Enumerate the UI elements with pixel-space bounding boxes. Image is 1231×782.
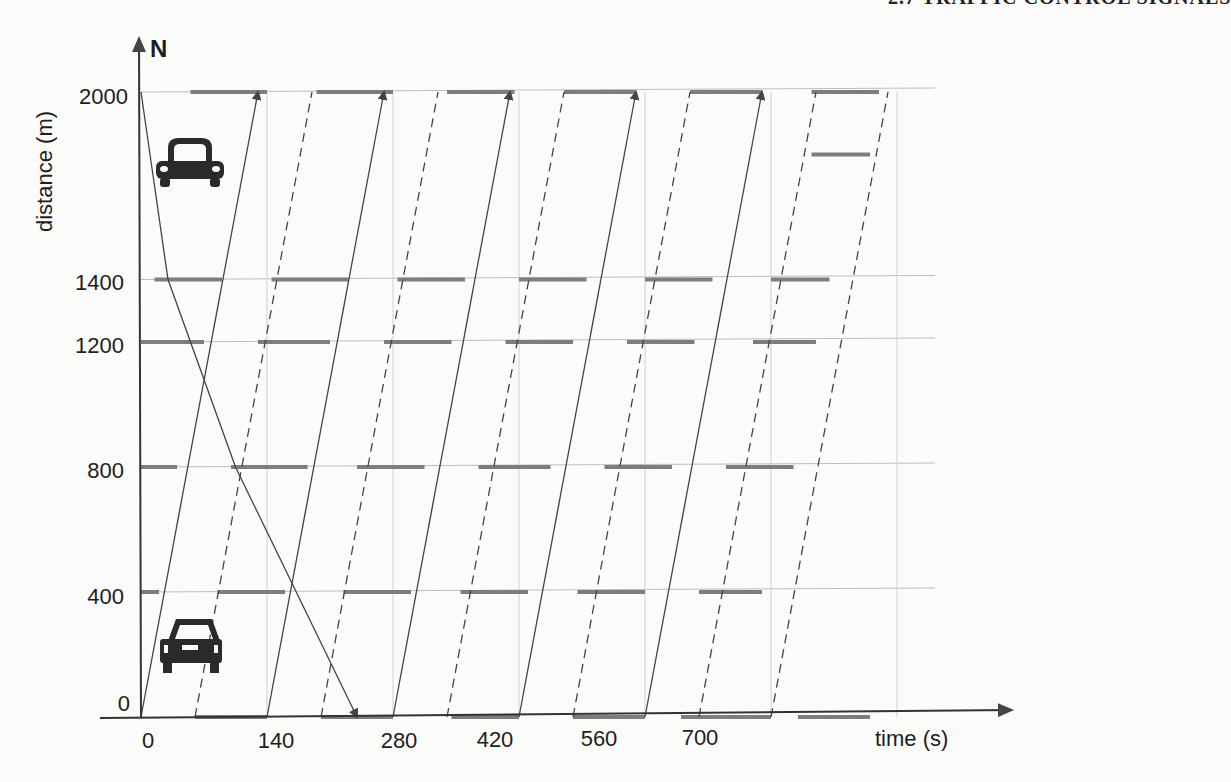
y-tick-2000: 2000 [79, 84, 128, 109]
southbound-trajectory [141, 92, 357, 717]
y-tick-800: 800 [87, 458, 124, 483]
x-tick-0: 0 [142, 728, 154, 753]
y-tick-labels: 0 400 800 1200 1400 2000 [75, 84, 130, 716]
y-tick-0: 0 [118, 691, 130, 716]
y-tick-1400: 1400 [75, 270, 124, 295]
north-label: N [150, 35, 167, 62]
band-end-trajectory [699, 92, 816, 717]
x-tick-700: 700 [682, 725, 719, 750]
band-end-trajectory [321, 92, 438, 717]
red-phase-bars [141, 92, 879, 717]
x-tick-140: 140 [258, 728, 295, 753]
y-tick-400: 400 [87, 584, 124, 609]
trajectories [141, 92, 888, 717]
band-end-trajectory [771, 92, 888, 717]
x-axis [100, 710, 1012, 718]
northbound-trajectory [519, 92, 636, 717]
y-axis-label: distance (m) [32, 111, 57, 232]
x-axis-label: time (s) [875, 726, 948, 751]
gridlines [141, 88, 935, 717]
x-tick-420: 420 [477, 727, 514, 752]
car-southbound-icon [156, 138, 224, 187]
car-northbound-icon [160, 619, 222, 673]
northbound-trajectory [645, 92, 762, 717]
y-tick-1200: 1200 [75, 333, 124, 358]
band-end-trajectory [447, 92, 564, 717]
x-tick-280: 280 [381, 728, 418, 753]
x-tick-560: 560 [581, 726, 618, 751]
northbound-trajectory [393, 92, 510, 717]
y-axis [139, 38, 141, 717]
x-tick-labels: 0 140 280 420 560 700 [142, 725, 718, 753]
northbound-trajectory [267, 92, 384, 717]
band-end-trajectory [573, 92, 690, 717]
